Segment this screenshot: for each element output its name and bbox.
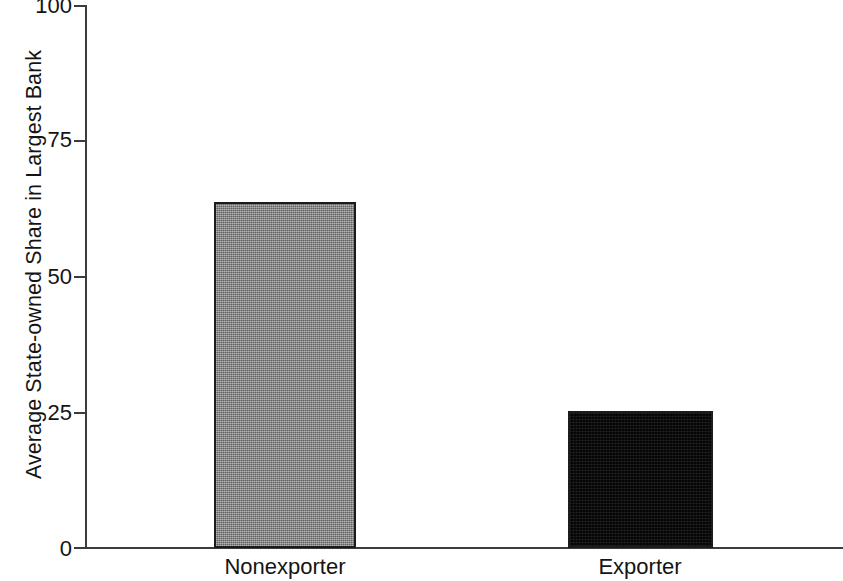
y-tick-label-0: 0 [0, 538, 72, 560]
y-tick-label-25: 25 [0, 402, 72, 424]
y-tick-label-75: 75 [0, 129, 72, 151]
x-axis-line [85, 547, 843, 549]
y-axis-line [85, 5, 87, 549]
y-tick-label-50: 50 [0, 266, 72, 288]
bar-nonexporter [214, 202, 356, 548]
y-axis-title: Average State-owned Share in Largest Ban… [22, 5, 47, 525]
bar-chart: Average State-owned Share in Largest Ban… [0, 0, 843, 581]
x-category-label-nonexporter: Nonexporter [185, 556, 385, 578]
y-tick-label-100: 100 [0, 0, 72, 17]
bar-exporter [568, 411, 713, 548]
x-category-label-exporter: Exporter [540, 556, 740, 578]
